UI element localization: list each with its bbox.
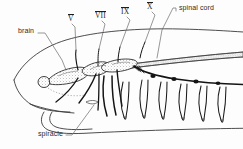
anatomical-figure: brain V VII IX X spinal cord spiracle (0, 0, 243, 149)
dorsal-root-ganglion (150, 74, 155, 78)
leader-v (72, 24, 76, 50)
leader-vii (99, 21, 105, 49)
gill-nerve-loop (126, 82, 129, 117)
figure-illustration (0, 0, 243, 149)
olfactory-bulb (38, 77, 50, 88)
label-spiracle: spiracle (38, 130, 63, 138)
gill-nerve-loop (164, 82, 167, 117)
gill-nerve-loop-tip (182, 118, 184, 120)
label-cranial-nerve-x: X (147, 2, 153, 11)
cranial-nerve-x-trunk (134, 66, 243, 85)
dorsal-root-ganglion (171, 77, 176, 81)
dorsal-root-ganglion (193, 80, 198, 84)
gill-nerve-loop-tip (162, 117, 164, 119)
gill-nerve-loop (223, 87, 226, 120)
gill-nerve-loop-tip (124, 117, 126, 119)
dorsal-root-ganglion (216, 82, 221, 86)
dorsal-outline (14, 29, 243, 80)
gill-nerve-loop-tip (143, 116, 145, 118)
cranial-nerve-x-root (140, 42, 145, 58)
label-brain: brain (18, 27, 34, 35)
hindbrain-medulla (102, 59, 138, 72)
gill-nerve-loop-tip (202, 119, 204, 121)
branchial-branch (103, 76, 107, 116)
gill-nerve-loop (218, 87, 221, 120)
gill-nerve-loop (159, 82, 162, 117)
leader-x (145, 12, 155, 42)
jaw-inner-curve (50, 112, 92, 130)
anterior-branchial-branches (103, 76, 116, 116)
gill-nerve-loop-tip (221, 120, 223, 122)
leader-spinal-cord (157, 8, 176, 58)
gill-nerve-loop (199, 86, 202, 119)
gill-nerve-loop (140, 80, 143, 116)
cranial-nerve-vii-branch-b (98, 74, 99, 110)
label-cranial-nerve-v: V (68, 14, 74, 23)
gill-nerve-loop (121, 82, 124, 117)
gill-nerve-loop (184, 84, 187, 118)
gill-nerve-loop (145, 80, 148, 116)
label-spinal-cord: spinal cord (179, 4, 214, 12)
label-cranial-nerve-ix: IX (121, 7, 129, 16)
leader-spiracle (66, 105, 94, 135)
spiracle-opening (86, 101, 98, 104)
gill-nerve-loop (204, 86, 207, 119)
label-cranial-nerve-vii: VII (95, 11, 106, 20)
gill-nerve-loop (179, 84, 182, 118)
gill-arch-nerves-group (121, 80, 226, 122)
spiracle-group (86, 101, 98, 104)
branchial-branch (112, 76, 116, 115)
leader-brain (38, 33, 66, 70)
leader-ix (120, 17, 130, 47)
